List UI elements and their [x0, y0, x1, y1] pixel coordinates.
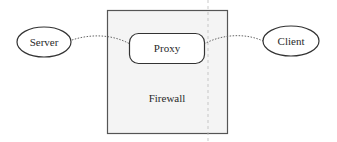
client-label: Client: [278, 35, 305, 47]
client-node: Client: [263, 26, 319, 56]
server-label: Server: [30, 36, 59, 48]
firewall-label: Firewall: [149, 92, 186, 104]
server-node: Server: [17, 27, 71, 57]
firewall-box: Firewall: [108, 11, 228, 134]
proxy-node: Proxy: [130, 34, 205, 64]
proxy-label: Proxy: [154, 42, 181, 54]
network-diagram: Firewall Server Proxy Client: [0, 0, 337, 142]
